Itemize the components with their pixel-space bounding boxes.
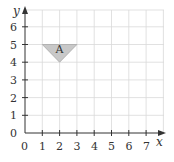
x-tick-label: 1 xyxy=(39,140,46,153)
y-tick-label: 0 xyxy=(10,127,17,140)
x-tick-label: 0 xyxy=(21,140,28,153)
coordinate-grid: A 0 1 2 3 4 5 6 7 x 0 1 2 3 4 5 6 y xyxy=(0,0,174,162)
y-tick-label: 2 xyxy=(10,92,17,105)
x-tick-label: 3 xyxy=(74,140,81,153)
x-tick-label: 6 xyxy=(126,140,133,153)
y-tick-label: 5 xyxy=(10,39,17,52)
y-tick-label: 6 xyxy=(10,21,17,34)
y-tick-label: 3 xyxy=(10,74,17,87)
x-axis-label: x xyxy=(156,135,163,149)
axes xyxy=(25,12,160,133)
x-tick-label: 7 xyxy=(143,140,150,153)
triangle-a-label: A xyxy=(55,43,65,56)
x-tick-label: 4 xyxy=(91,140,98,153)
grid-lines xyxy=(25,10,164,133)
y-tick-label: 1 xyxy=(10,109,17,122)
x-tick-label: 2 xyxy=(56,140,63,153)
y-tick-label: 4 xyxy=(10,56,17,69)
x-tick-label: 5 xyxy=(108,140,115,153)
y-axis-label: y xyxy=(12,4,20,18)
